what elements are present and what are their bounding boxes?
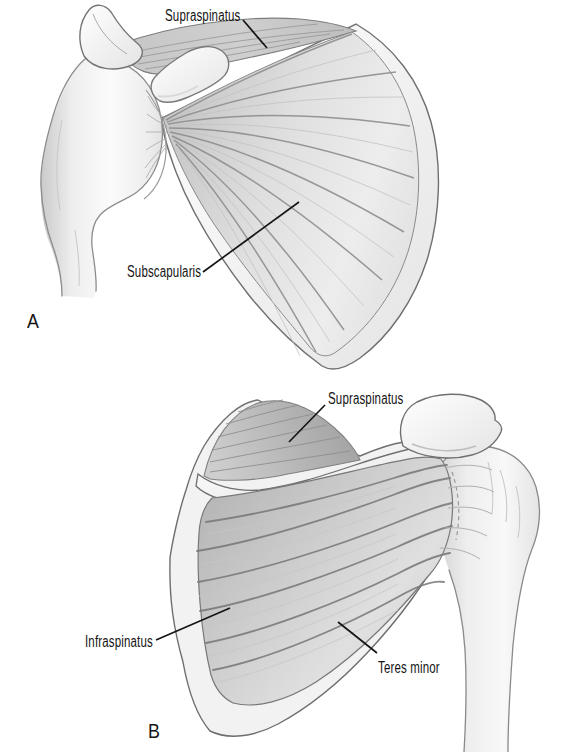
panel-b-illustration bbox=[156, 394, 539, 752]
humerus-a bbox=[41, 58, 163, 298]
label-subscapularis: Subscapularis bbox=[127, 263, 201, 281]
label-teres-minor: Teres minor bbox=[378, 659, 440, 677]
panel-a-illustration bbox=[41, 5, 439, 369]
acromion-b bbox=[401, 394, 502, 458]
label-infraspinatus: Infraspinatus bbox=[85, 633, 153, 651]
panel-letter-a: A bbox=[27, 310, 39, 331]
label-supraspinatus-b: Supraspinatus bbox=[328, 390, 404, 408]
panel-letter-b: B bbox=[148, 720, 160, 741]
acromion-a bbox=[80, 5, 142, 69]
label-supraspinatus-a: Supraspinatus bbox=[165, 7, 241, 25]
figure-canvas: Supraspinatus Subscapularis A Supraspina… bbox=[0, 0, 563, 752]
